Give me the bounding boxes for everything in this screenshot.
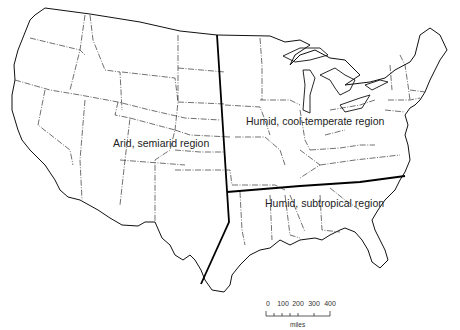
scale-tick-400: 400 [324, 300, 336, 307]
scale-tick-0: 0 [266, 300, 270, 307]
state-borders [15, 15, 425, 245]
scale-bar-unit: miles [290, 321, 305, 328]
scale-tick-200: 200 [292, 300, 304, 307]
region-label-humid-subtropical: Humid, subtropical region [265, 197, 384, 209]
region-label-arid: Arid, semiarid region [113, 137, 209, 149]
cool-subtropical-divider [227, 176, 405, 192]
us-climate-region-map [0, 0, 460, 330]
arid-humid-divider [201, 35, 229, 284]
scale-tick-100: 100 [277, 300, 289, 307]
scale-tick-300: 300 [308, 300, 320, 307]
region-label-humid-cool-temperate: Humid, cool-temperate region [246, 115, 384, 127]
us-outline [12, 8, 447, 292]
great-lakes [283, 48, 388, 113]
scale-bar [266, 311, 330, 316]
